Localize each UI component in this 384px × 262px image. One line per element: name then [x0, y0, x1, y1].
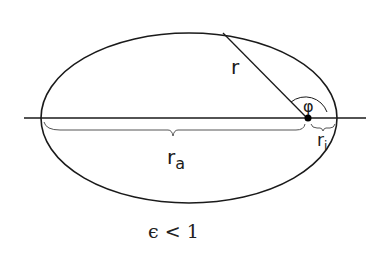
radius-label: r	[231, 55, 240, 79]
aphelion-label: ra	[167, 145, 185, 173]
angle-label: φ	[303, 97, 314, 116]
orbit-diagram: r φ ra ri ϵ < 1	[0, 0, 384, 262]
eccentricity-condition: ϵ < 1	[148, 220, 199, 242]
aphelion-brace	[44, 122, 305, 136]
perihelion-label: ri	[317, 130, 327, 153]
